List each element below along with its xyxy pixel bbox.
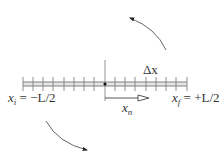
x-f-eq: = +L/2	[180, 90, 219, 105]
x-f-sub: f	[178, 97, 181, 107]
bottom-rotation-arrow-icon	[46, 121, 87, 150]
x-i-sub: i	[14, 97, 17, 107]
x-final-label: xf = +L/2	[172, 91, 220, 104]
x-n-sub: n	[128, 107, 133, 117]
top-rotation-arrow-icon	[130, 18, 166, 50]
lattice-diagram	[0, 0, 224, 160]
x-n-var: x	[122, 100, 128, 115]
x-initial-label: xi = −L/2	[8, 91, 56, 104]
delta-x-label: Δx	[143, 63, 158, 76]
x-i-var: x	[8, 90, 14, 105]
x-n-label: xn	[122, 101, 132, 114]
center-dot	[103, 82, 106, 85]
x-f-var: x	[172, 90, 178, 105]
x-i-eq: = −L/2	[16, 90, 55, 105]
